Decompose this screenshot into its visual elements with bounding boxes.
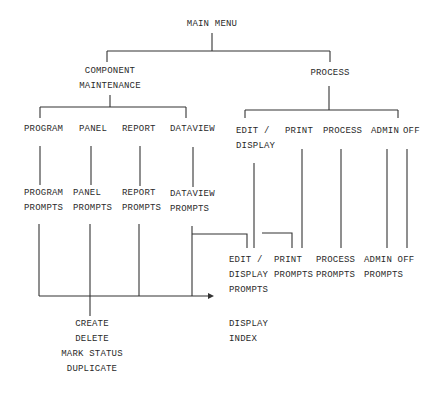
program-prompts-node: PROGRAM PROMPTS bbox=[24, 186, 63, 216]
panel-actions-node: CREATE DELETE MARK STATUS DUPLICATE bbox=[55, 317, 129, 377]
panel-prompts-node: PANEL PROMPTS bbox=[73, 186, 112, 216]
report-prompts-node: REPORT PROMPTS bbox=[122, 186, 161, 216]
main-menu-node: MAIN MENU bbox=[170, 17, 254, 32]
process-node: PROCESS bbox=[300, 66, 360, 81]
process-child-node: PROCESS bbox=[323, 124, 362, 139]
print-node: PRINT bbox=[285, 124, 313, 139]
print-prompts-node: PRINT PROMPTS bbox=[274, 253, 313, 283]
admin-node: ADMIN bbox=[371, 124, 399, 139]
process-prompts-node: PROCESS PROMPTS bbox=[316, 253, 355, 283]
dataview-node: DATAVIEW bbox=[170, 122, 215, 137]
edit-display-node: EDIT / DISPLAY bbox=[236, 124, 275, 154]
off-node: OFF bbox=[403, 124, 420, 139]
report-node: REPORT bbox=[122, 122, 156, 137]
panel-node: PANEL bbox=[79, 122, 107, 137]
dataview-prompts-node: DATAVIEW PROMPTS bbox=[170, 187, 215, 217]
admin-off-prompts-node: ADMIN OFF PROMPTS bbox=[364, 253, 414, 283]
display-index-node: DISPLAY INDEX bbox=[229, 317, 268, 347]
program-node: PROGRAM bbox=[24, 122, 63, 137]
edit-display-prompts-node: EDIT / DISPLAY PROMPTS bbox=[229, 253, 268, 298]
component-maintenance-node: COMPONENT MAINTENANCE bbox=[60, 64, 160, 94]
